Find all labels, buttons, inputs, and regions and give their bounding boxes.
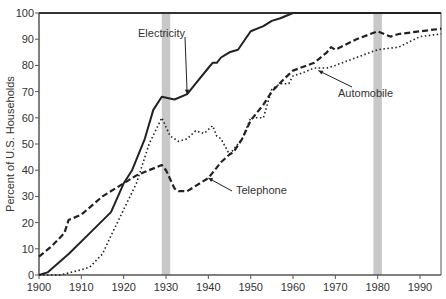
y-tick-label: 40	[22, 164, 34, 176]
x-tick-label: 1940	[196, 281, 220, 293]
annotation-telephone-label: Telephone	[236, 184, 287, 196]
y-tick-label: 90	[22, 33, 34, 45]
x-tick-label: 1910	[69, 281, 93, 293]
y-tick-label: 20	[22, 217, 34, 229]
x-tick-label: 1920	[111, 281, 135, 293]
shaded-band-0	[162, 13, 170, 275]
shaded-band-1	[373, 13, 381, 275]
household-adoption-chart: 0102030405060708090100190019101920193019…	[0, 0, 446, 299]
line-chart: 0102030405060708090100190019101920193019…	[0, 0, 446, 299]
annotation-electricity-label: Electricity	[138, 27, 186, 39]
y-tick-label: 0	[28, 269, 34, 281]
annotations: ElectricityTelephoneAutomobile	[138, 27, 393, 196]
x-tick-label: 1950	[238, 281, 262, 293]
y-tick-label: 10	[22, 243, 34, 255]
x-tick-label: 1970	[323, 281, 347, 293]
y-tick-label: 100	[16, 7, 34, 19]
annotation-automobile-label: Automobile	[338, 87, 393, 99]
y-tick-label: 70	[22, 86, 34, 98]
y-tick-label: 50	[22, 138, 34, 150]
annotation-automobile-arrow	[318, 71, 352, 87]
x-tick-label: 1930	[154, 281, 178, 293]
y-tick-label: 80	[22, 59, 34, 71]
annotation-electricity-arrow	[185, 37, 187, 94]
y-axis-title: Percent of U.S. Households	[4, 76, 16, 212]
shaded-bands	[162, 13, 382, 275]
y-tick-label: 30	[22, 190, 34, 202]
x-tick-label: 1900	[27, 281, 51, 293]
y-tick-label: 60	[22, 112, 34, 124]
x-tick-label: 1980	[365, 281, 389, 293]
x-tick-label: 1960	[281, 281, 305, 293]
x-tick-label: 1990	[408, 281, 432, 293]
